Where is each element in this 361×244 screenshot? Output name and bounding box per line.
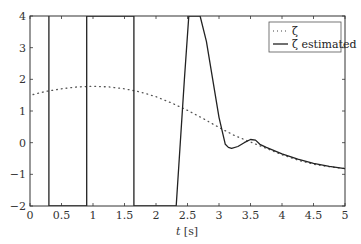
x-tick-label: 2.5 bbox=[179, 209, 197, 222]
x-tick-label: 3.5 bbox=[242, 209, 260, 222]
x-tick-label: 2 bbox=[153, 209, 160, 222]
y-tick-label: 4 bbox=[19, 10, 26, 23]
legend-label-zeta-estimated: ζ estimated bbox=[292, 38, 357, 51]
line-chart: 00.511.522.533.544.55 −2−101234 t [s] ζ … bbox=[0, 0, 361, 244]
x-tick-label: 4.5 bbox=[305, 209, 323, 222]
y-tick-labels: −2−101234 bbox=[10, 10, 26, 213]
x-tick-label: 1.5 bbox=[116, 209, 134, 222]
x-tick-label: 0.5 bbox=[53, 209, 71, 222]
y-tick-label: 1 bbox=[19, 105, 26, 118]
x-axis-label: t [s] bbox=[176, 225, 198, 238]
y-tick-label: 0 bbox=[19, 137, 26, 150]
y-tick-label: 3 bbox=[19, 42, 26, 55]
x-tick-labels: 00.511.522.533.544.55 bbox=[27, 209, 349, 222]
x-tick-label: 5 bbox=[342, 209, 349, 222]
x-tick-label: 3 bbox=[216, 209, 223, 222]
y-tick-label: −2 bbox=[10, 200, 26, 213]
y-tick-label: 2 bbox=[19, 73, 26, 86]
x-axis-label-unit: [s] bbox=[180, 225, 198, 238]
x-tick-label: 1 bbox=[90, 209, 97, 222]
x-tick-label: 0 bbox=[27, 209, 34, 222]
y-tick-label: −1 bbox=[10, 168, 26, 181]
x-tick-label: 4 bbox=[279, 209, 286, 222]
legend-label-zeta: ζ bbox=[292, 25, 298, 38]
